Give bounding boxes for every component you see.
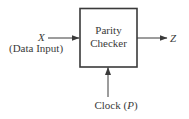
clock-paren-close: ): [134, 99, 138, 111]
input-description: (Data Input): [9, 42, 63, 54]
output-symbol: Z: [170, 32, 176, 44]
block-label-line2: Checker: [90, 37, 127, 49]
block-label-line1: Parity: [95, 24, 121, 36]
clock-label: Clock: [94, 99, 120, 111]
clock-label-group: Clock (P): [94, 99, 137, 111]
